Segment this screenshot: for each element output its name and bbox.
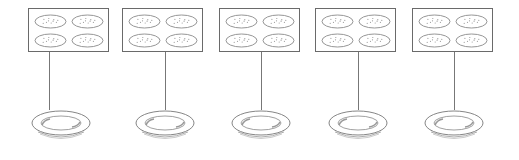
cookie-icon: [321, 33, 354, 52]
cookie-icon: [358, 14, 391, 33]
cookie-icon: [128, 33, 161, 52]
cookie-box-1: [28, 8, 109, 52]
cookie-icon: [71, 14, 104, 33]
cookie-box-3: [219, 8, 300, 52]
connector-line-5: [454, 52, 455, 110]
connector-line-1: [49, 52, 50, 110]
cookie-icon: [455, 14, 488, 33]
cookie-box-5: [412, 8, 493, 52]
cookie-icon: [165, 33, 198, 52]
cookie-icon: [225, 33, 258, 52]
connector-line-3: [261, 52, 262, 110]
connector-line-2: [165, 52, 166, 110]
connector-line-4: [358, 52, 359, 110]
plate-icon: [30, 108, 92, 148]
cookie-icon: [455, 33, 488, 52]
cookie-icon: [34, 14, 67, 33]
cookie-icon: [262, 14, 295, 33]
cookie-icon: [418, 33, 451, 52]
cookie-icon: [225, 14, 258, 33]
cookie-icon: [358, 33, 391, 52]
cookie-icon: [165, 14, 198, 33]
cookie-icon: [128, 14, 161, 33]
cookie-icon: [321, 14, 354, 33]
plate-icon: [134, 108, 196, 148]
plate-icon: [230, 108, 292, 148]
cookie-icon: [262, 33, 295, 52]
cookie-box-4: [315, 8, 396, 52]
plate-icon: [423, 108, 485, 148]
plate-icon: [327, 108, 389, 148]
cookie-box-2: [122, 8, 203, 52]
cookie-icon: [34, 33, 67, 52]
cookie-icon: [71, 33, 104, 52]
cookie-icon: [418, 14, 451, 33]
